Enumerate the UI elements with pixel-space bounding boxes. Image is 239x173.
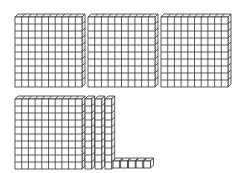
tens-rods-group (85, 96, 115, 169)
unit-cube (144, 158, 154, 168)
hundred-flat (15, 96, 85, 169)
ten-rod (95, 96, 105, 169)
hundred-flat (88, 14, 158, 87)
hundreds-flats-group (15, 14, 231, 169)
base-ten-blocks-diagram (0, 0, 239, 173)
unit-cubes-group (113, 158, 154, 168)
ten-rod (85, 96, 95, 169)
hundred-flat (161, 14, 231, 87)
ten-rod (105, 96, 115, 169)
hundred-flat (15, 14, 85, 87)
